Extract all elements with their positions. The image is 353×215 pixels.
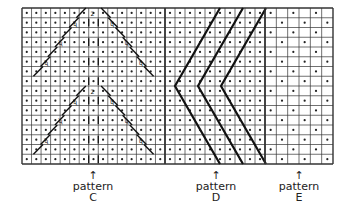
knitting-chart: ʯʯʯʯʯʯ2ʯʯʯʯʯʯ2: [0, 0, 353, 175]
svg-text:2: 2: [91, 88, 95, 95]
svg-text:ʯ: ʯ: [73, 98, 78, 106]
svg-text:ʯ: ʯ: [44, 59, 49, 67]
svg-text:ʯ: ʯ: [59, 39, 64, 47]
pattern-d-label: ↑ pattern D: [186, 171, 246, 203]
pattern-e-label: ↑ pattern E: [269, 171, 329, 203]
svg-text:ʯ: ʯ: [44, 137, 49, 145]
svg-text:2: 2: [91, 10, 95, 17]
svg-text:ʯ: ʯ: [59, 117, 64, 125]
svg-text:ʯ: ʯ: [73, 20, 78, 28]
pattern-c-label: ↑ pattern C: [63, 171, 123, 203]
